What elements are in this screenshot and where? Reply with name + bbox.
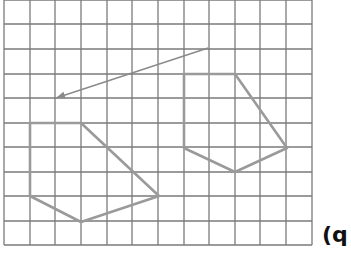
question-label: (q: [322, 222, 348, 248]
grid-figure: [0, 0, 351, 265]
arrowhead-icon: [56, 92, 66, 99]
